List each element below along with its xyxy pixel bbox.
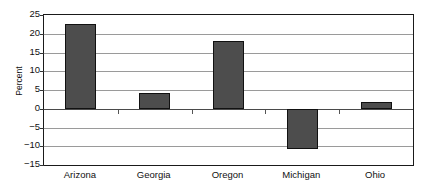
y-tick-label: 5: [14, 84, 40, 93]
y-tick-mark: [40, 146, 44, 147]
y-tick-mark: [40, 71, 44, 72]
x-tick-label-ohio: Ohio: [338, 169, 412, 180]
gridline: [44, 146, 413, 147]
x-axis-tick-labels: Arizona Georgia Oregon Michigan Ohio: [43, 14, 414, 54]
bar-michigan: [287, 109, 318, 150]
x-tick-mark: [265, 110, 266, 114]
y-tick-label: −5: [14, 122, 40, 131]
bar-ohio: [361, 102, 392, 109]
y-tick-mark: [40, 109, 44, 110]
gridline: [44, 128, 413, 129]
y-tick-mark: [40, 90, 44, 91]
y-tick-label: 10: [14, 65, 40, 74]
x-tick-label-arizona: Arizona: [43, 169, 117, 180]
bar-chart: Percent 25 20 15 10 5 0 −5 −10 −15: [0, 0, 426, 181]
x-tick-label-michigan: Michigan: [264, 169, 338, 180]
x-tick-label-georgia: Georgia: [117, 169, 191, 180]
x-tick-mark: [192, 110, 193, 114]
y-tick-mark: [40, 128, 44, 129]
bar-georgia: [139, 93, 170, 109]
y-tick-label: −15: [14, 159, 40, 168]
y-tick-label: 0: [14, 103, 40, 112]
zero-line: [44, 109, 413, 110]
y-tick-label: 15: [14, 47, 40, 56]
y-tick-label: −10: [14, 140, 40, 149]
y-tick-mark: [40, 165, 44, 166]
y-tick-label: 20: [14, 28, 40, 37]
x-tick-mark: [339, 110, 340, 114]
y-tick-label: 25: [14, 9, 40, 18]
x-tick-mark: [118, 110, 119, 114]
x-tick-label-oregon: Oregon: [191, 169, 265, 180]
y-axis-tick-labels: 25 20 15 10 5 0 −5 −10 −15: [14, 0, 40, 181]
